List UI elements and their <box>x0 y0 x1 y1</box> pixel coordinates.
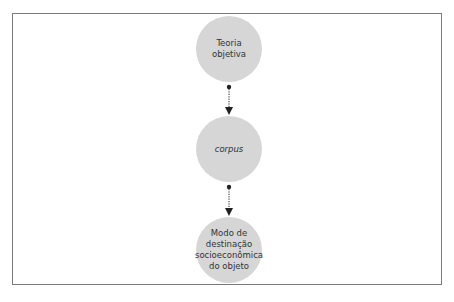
node-label-line: do objeto <box>195 261 263 272</box>
node-label-line: objetiva <box>212 49 246 60</box>
node-label-line: corpus <box>215 144 244 155</box>
node-label-modo: Modo dedestinaçãosocioeconômicado objeto <box>194 217 264 283</box>
arrowhead-icon <box>225 107 233 115</box>
edge-start-dot <box>227 85 231 89</box>
node-label-corpus: corpus <box>194 116 264 182</box>
node-label-line: Teoria <box>212 38 246 49</box>
edge-corpus-to-modo <box>225 185 233 216</box>
arrowhead-icon <box>225 208 233 216</box>
node-label-line: destinação <box>195 239 263 250</box>
edge-start-dot <box>227 185 231 189</box>
node-label-line: socioeconômica <box>195 250 263 261</box>
node-label-teoria: Teoriaobjetiva <box>194 16 264 82</box>
node-label-line: Modo de <box>195 228 263 239</box>
edge-teoria-to-corpus <box>225 85 233 115</box>
